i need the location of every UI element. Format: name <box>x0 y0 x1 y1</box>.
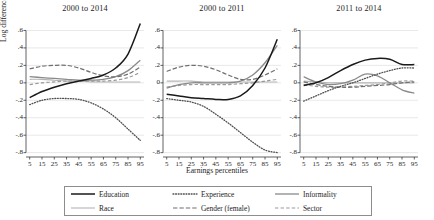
y-tick-label: 0 <box>281 79 297 86</box>
legend-label: Gender (female) <box>201 204 250 213</box>
y-tick-label: -.4 <box>7 114 23 121</box>
series-line-race <box>167 81 278 82</box>
series-line-experience <box>167 99 278 153</box>
legend-item[interactable]: Gender (female) <box>167 204 269 213</box>
y-tick-label: -.4 <box>144 114 160 121</box>
legend-label: Race <box>99 204 114 213</box>
series-line-experience <box>304 68 415 101</box>
legend-item[interactable]: Informality <box>269 190 371 199</box>
x-tick-label: 95 <box>406 161 422 168</box>
y-tick-label: -.4 <box>281 114 297 121</box>
legend-item[interactable]: Race <box>65 204 167 213</box>
y-tick-label: .2 <box>144 62 160 69</box>
y-tick-label: -.2 <box>281 97 297 104</box>
y-tick-label: .4 <box>281 44 297 51</box>
y-tick-label: 0 <box>7 79 23 86</box>
y-tick-label: .2 <box>281 62 297 69</box>
legend: EducationExperienceInformalityRaceGender… <box>64 186 372 216</box>
legend-label: Education <box>99 190 129 199</box>
legend-label: Sector <box>303 204 322 213</box>
y-tick-label: .6 <box>144 27 160 34</box>
x-tick-label: 95 <box>269 161 285 168</box>
y-tick-label: -.8 <box>144 149 160 156</box>
y-tick-label: .6 <box>7 27 23 34</box>
series-line-gender-female <box>30 65 141 77</box>
legend-swatch-icon <box>70 204 96 212</box>
plot-svg <box>300 20 418 157</box>
legend-item[interactable]: Sector <box>269 204 371 213</box>
y-tick-label: .2 <box>7 62 23 69</box>
y-tick-label: -.8 <box>281 149 297 156</box>
legend-swatch-icon <box>70 190 96 198</box>
legend-swatch-icon <box>274 204 300 212</box>
y-tick-label: 0 <box>144 79 160 86</box>
y-tick-label: -.2 <box>7 97 23 104</box>
figure-root: Log difference 2000 to 2014 2000 to 2011… <box>0 0 434 220</box>
legend-item[interactable]: Education <box>65 190 167 199</box>
series-line-education <box>30 23 141 97</box>
y-tick-label: -.2 <box>144 97 160 104</box>
panel-2000-to-2014: 2000 to 2014 <box>26 0 144 168</box>
legend-swatch-icon <box>274 190 300 198</box>
y-tick-label: -.8 <box>7 149 23 156</box>
y-tick-label: .4 <box>7 44 23 51</box>
panel-2011-to-2014: 2011 to 2014 <box>300 0 418 168</box>
y-axis-title: Log difference <box>0 0 8 42</box>
legend-swatch-icon <box>172 204 198 212</box>
y-tick-label: -.6 <box>7 132 23 139</box>
y-tick-label: -.6 <box>144 132 160 139</box>
y-tick-label: .4 <box>144 44 160 51</box>
plot-svg <box>163 20 281 157</box>
series-line-informality <box>304 74 415 93</box>
plot-svg <box>26 20 144 157</box>
series-line-informality <box>30 60 141 80</box>
x-tick-label: 95 <box>132 161 148 168</box>
series-line-education <box>167 39 278 100</box>
panel-2000-to-2011: 2000 to 2011 <box>163 0 281 168</box>
series-line-education <box>304 58 415 85</box>
y-tick-label: -.6 <box>281 132 297 139</box>
legend-label: Experience <box>201 190 234 199</box>
legend-item[interactable]: Experience <box>167 190 269 199</box>
legend-swatch-icon <box>172 190 198 198</box>
y-tick-label: .6 <box>281 27 297 34</box>
legend-label: Informality <box>303 190 337 199</box>
series-line-experience <box>30 98 141 140</box>
